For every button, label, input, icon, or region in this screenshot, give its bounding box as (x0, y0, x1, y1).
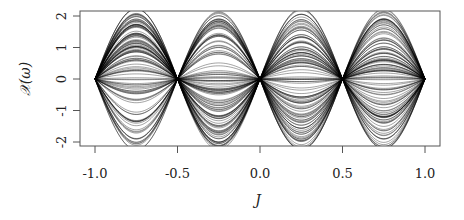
x-tick-label: -0.5 (165, 166, 190, 181)
y-tick-label: 0 (54, 75, 69, 83)
y-tick-label: -1 (54, 104, 69, 117)
y-axis: -2-1012 (54, 12, 80, 148)
x-axis: -1.0-0.50.00.51.0 (82, 146, 435, 181)
x-tick-label: 0.5 (332, 166, 353, 181)
x-tick-label: 1.0 (415, 166, 436, 181)
y-axis-title: 𝒳(ω) (17, 62, 33, 96)
y-tick-label: 1 (54, 43, 69, 51)
y-tick-label: -2 (54, 136, 69, 149)
chart: -1.0-0.50.00.51.0 -2-1012 J 𝒳(ω) (0, 0, 464, 220)
x-tick-label: 0.0 (250, 166, 271, 181)
plot-curves (95, 9, 425, 150)
x-axis-title: J (252, 192, 262, 208)
x-tick-label: -1.0 (82, 166, 107, 181)
y-tick-label: 2 (54, 12, 69, 20)
